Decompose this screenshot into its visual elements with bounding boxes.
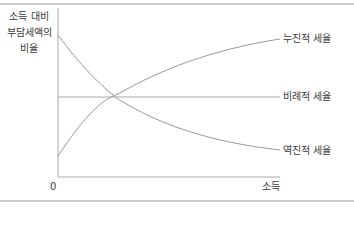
origin-label: 0 xyxy=(50,181,56,193)
bottom-border xyxy=(0,200,354,202)
legend-regressive: 역진적 세율 xyxy=(283,145,331,157)
legend-proportional: 비례적 세율 xyxy=(283,91,331,103)
x-axis-label: 소득 xyxy=(262,181,280,193)
regressive-tax-curve xyxy=(58,35,280,150)
legend-progressive: 누진적 세율 xyxy=(283,33,331,45)
